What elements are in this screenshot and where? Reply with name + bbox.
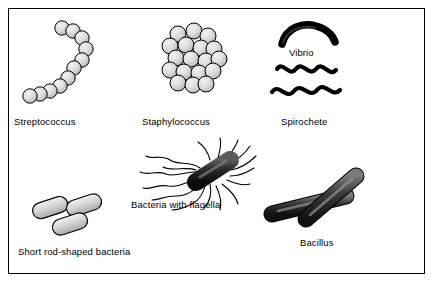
- label-vibrio: Vibrio: [289, 47, 314, 58]
- label-short-rod-shaped-bacteria: Short rod-shaped bacteria: [18, 246, 130, 257]
- label-staphylococcus: Staphylococcus: [142, 116, 210, 127]
- streptococcus-illustration: [23, 21, 93, 103]
- vibrio-illustration: [282, 25, 335, 44]
- bacillus-illustration: [272, 176, 356, 219]
- spirochete-illustration: [272, 66, 340, 94]
- label-bacillus: Bacillus: [300, 237, 334, 248]
- label-streptococcus: Streptococcus: [14, 116, 76, 127]
- label-bacteria-with-flagella: Bacteria with flagella: [131, 199, 220, 210]
- bacteria-morphology-figure: Streptococcus Staphylococcus Spirochete …: [0, 0, 435, 284]
- label-spirochete: Spirochete: [281, 116, 327, 127]
- staphylococcus-illustration: [162, 23, 227, 93]
- short-rod-shaped-bacteria-illustration: [31, 192, 104, 237]
- bacteria-illustrations: [0, 0, 435, 284]
